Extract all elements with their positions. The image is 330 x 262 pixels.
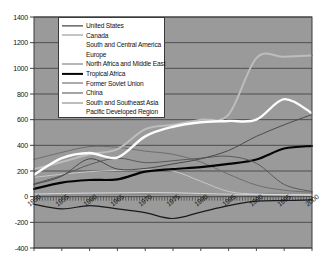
legend-swatch-icon (62, 69, 83, 78)
legend-item-label: Europe (86, 50, 106, 60)
legend-swatch-icon (62, 79, 83, 88)
legend-item: Canada (59, 31, 164, 41)
y-axis-label: 200 (2, 168, 28, 175)
legend-item-label: United States (86, 21, 124, 31)
legend-swatch-icon (62, 21, 83, 30)
legend-swatch-icon (62, 88, 83, 97)
legend-item: North Africa and Middle East (59, 59, 164, 69)
legend-item-label: Tropical Africa (86, 69, 125, 79)
y-axis-label: 1400 (2, 14, 28, 21)
legend-item: Pacific Developed Region (59, 107, 164, 117)
y-axis-label: 400 (2, 142, 28, 149)
legend-item-label: Former Soviet Union (86, 79, 144, 89)
y-axis-label: 600 (2, 116, 28, 123)
line-chart: 1400120010008006004002000-200-400 195019… (0, 0, 330, 262)
legend-swatch-icon (62, 108, 83, 117)
y-axis-label: -400 (2, 245, 28, 252)
legend-item-label: China (86, 88, 102, 98)
legend-item-label: North Africa and Middle East (86, 59, 165, 69)
legend-item-label: Pacific Developed Region (86, 107, 158, 117)
y-axis-ticks (30, 17, 34, 248)
y-axis-label: 1200 (2, 39, 28, 46)
legend-item: South and Southeast Asia (59, 98, 164, 108)
legend-item-label: South and Southeast Asia (86, 98, 158, 108)
legend-item: Tropical Africa (59, 69, 164, 79)
legend-swatch-icon (62, 50, 83, 59)
legend-item: China (59, 88, 164, 98)
y-axis-label: 800 (2, 91, 28, 98)
y-axis-label: 1000 (2, 65, 28, 72)
legend-swatch-icon (62, 31, 83, 40)
legend-item-label: South and Central America (86, 40, 161, 50)
legend-item-label: Canada (86, 31, 108, 41)
legend-item: Europe (59, 50, 164, 60)
y-axis-label: -200 (2, 219, 28, 226)
legend-item: Former Soviet Union (59, 79, 164, 89)
legend-item: United States (59, 21, 164, 31)
y-axis-label: 0 (2, 193, 28, 200)
legend: United StatesCanadaSouth and Central Ame… (58, 17, 165, 118)
legend-swatch-icon (62, 60, 83, 69)
plot-svg (0, 0, 330, 262)
legend-swatch-icon (62, 98, 83, 107)
legend-item: South and Central America (59, 40, 164, 50)
legend-swatch-icon (62, 40, 83, 49)
